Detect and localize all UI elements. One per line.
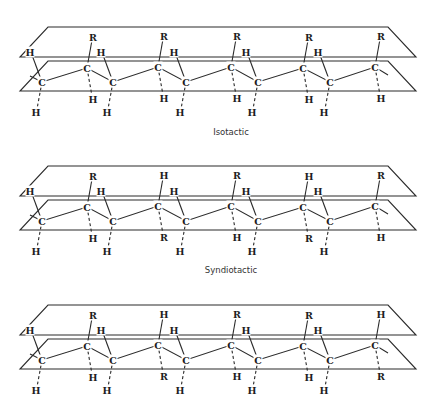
upper-plane (20, 305, 416, 335)
substituent-r: R (377, 371, 385, 382)
caption-isotactic: Isotactic (171, 127, 291, 137)
hydrogen-atom: H (26, 47, 35, 58)
carbon-atom: C (371, 340, 379, 351)
substituent-r: R (233, 309, 241, 320)
hydrogen-atom: H (314, 325, 323, 336)
substituent-r: R (305, 310, 313, 321)
panel-isotactic: HHCHHCHHCHHCHHCRHCRHCRHCRHCRHC (20, 27, 416, 118)
carbon-atom: C (182, 355, 190, 366)
hydrogen-atom: H (305, 171, 314, 182)
carbon-atom: C (299, 63, 307, 74)
carbon-atom: C (326, 77, 334, 88)
hydrogen-atom: H (170, 325, 179, 336)
carbon-atom: C (38, 77, 46, 88)
hydrogen-atom: H (242, 186, 251, 197)
hydrogen-atom: H (377, 232, 386, 243)
hydrogen-atom: H (170, 186, 179, 197)
hydrogen-atom: H (32, 246, 41, 257)
hydrogen-atom: H (242, 47, 251, 58)
substituent-r: R (160, 232, 168, 243)
hydrogen-atom: H (248, 107, 257, 118)
hydrogen-atom: H (176, 107, 185, 118)
carbon-atom: C (254, 216, 262, 227)
hydrogen-atom: H (314, 47, 323, 58)
carbon-atom: C (254, 355, 262, 366)
hydrogen-atom: H (97, 47, 106, 58)
carbon-atom: C (83, 63, 91, 74)
hydrogen-atom: H (89, 94, 98, 105)
hydrogen-atom: H (314, 186, 323, 197)
carbon-atom: C (182, 216, 190, 227)
hydrogen-atom: H (176, 385, 185, 396)
hydrogen-atom: H (103, 246, 112, 257)
carbon-atom: C (254, 77, 262, 88)
carbon-atom: C (38, 355, 46, 366)
substituent-r: R (160, 31, 168, 42)
hydrogen-atom: H (170, 47, 179, 58)
carbon-atom: C (109, 355, 117, 366)
substituent-r: R (89, 171, 97, 182)
diagram-canvas: HHCHHCHHCHHCHHCRHCRHCRHCRHCRHCHHCHHCHHCH… (0, 0, 437, 397)
lower-plane (20, 339, 416, 369)
hydrogen-atom: H (248, 385, 257, 396)
substituent-r: R (233, 31, 241, 42)
carbon-atom: C (83, 341, 91, 352)
substituent-r: R (233, 170, 241, 181)
hydrogen-atom: H (305, 94, 314, 105)
carbon-atom: C (227, 201, 235, 212)
lower-plane (20, 61, 416, 91)
hydrogen-atom: H (377, 93, 386, 104)
hydrogen-atom: H (320, 107, 329, 118)
caption-syndiotactic: Syndiotactic (171, 265, 291, 275)
tacticity-diagram: HHCHHCHHCHHCHHCRHCRHCRHCRHCRHCHHCHHCHHCH… (0, 0, 437, 397)
carbon-atom: C (182, 77, 190, 88)
substituent-r: R (305, 233, 313, 244)
carbon-atom: C (326, 355, 334, 366)
carbon-atom: C (154, 62, 162, 73)
hydrogen-atom: H (160, 93, 169, 104)
hydrogen-atom: H (32, 385, 41, 396)
hydrogen-atom: H (248, 246, 257, 257)
upper-plane (20, 166, 416, 196)
panel-atactic: HHCHHCHHCHHCHHCRHCHRCRHCRHCHRC (20, 305, 416, 396)
carbon-atom: C (299, 202, 307, 213)
hydrogen-atom: H (233, 232, 242, 243)
hydrogen-atom: H (233, 93, 242, 104)
hydrogen-atom: H (26, 325, 35, 336)
carbon-atom: C (227, 340, 235, 351)
hydrogen-atom: H (97, 186, 106, 197)
upper-plane (20, 27, 416, 57)
carbon-atom: C (326, 216, 334, 227)
substituent-r: R (160, 371, 168, 382)
hydrogen-atom: H (26, 186, 35, 197)
hydrogen-atom: H (89, 372, 98, 383)
carbon-atom: C (154, 340, 162, 351)
carbon-atom: C (38, 216, 46, 227)
hydrogen-atom: H (320, 385, 329, 396)
hydrogen-atom: H (103, 107, 112, 118)
carbon-atom: C (109, 77, 117, 88)
carbon-atom: C (227, 62, 235, 73)
hydrogen-atom: H (32, 107, 41, 118)
hydrogen-atom: H (242, 325, 251, 336)
hydrogen-atom: H (97, 325, 106, 336)
carbon-atom: C (371, 201, 379, 212)
hydrogen-atom: H (160, 170, 169, 181)
hydrogen-atom: H (160, 309, 169, 320)
hydrogen-atom: H (103, 385, 112, 396)
hydrogen-atom: H (233, 371, 242, 382)
lower-plane (20, 200, 416, 230)
hydrogen-atom: H (176, 246, 185, 257)
carbon-atom: C (109, 216, 117, 227)
carbon-atom: C (154, 201, 162, 212)
substituent-r: R (377, 31, 385, 42)
substituent-r: R (305, 32, 313, 43)
substituent-r: R (377, 170, 385, 181)
hydrogen-atom: H (89, 233, 98, 244)
substituent-r: R (89, 310, 97, 321)
carbon-atom: C (371, 62, 379, 73)
substituent-r: R (89, 32, 97, 43)
carbon-atom: C (83, 202, 91, 213)
hydrogen-atom: H (320, 246, 329, 257)
panel-syndiotactic: HHCHHCHHCHHCHHCRHCHRCRHCHRCRHC (20, 166, 416, 257)
